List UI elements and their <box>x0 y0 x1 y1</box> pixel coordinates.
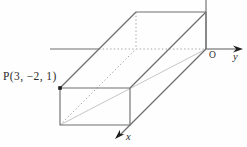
box-3d-figure: P(3, −2, 1) O y x <box>0 0 247 147</box>
x-axis-line <box>119 49 206 136</box>
origin-label: O <box>209 50 216 60</box>
bottom-face-diagonal <box>60 49 206 125</box>
x-axis-label: x <box>125 131 131 142</box>
box-edge-top-right <box>130 12 206 88</box>
hidden-edges-group <box>60 12 206 125</box>
x-axis-arrowhead <box>115 130 124 139</box>
point-p-label: P(3, −2, 1) <box>3 70 57 83</box>
diagram-page: P(3, −2, 1) O y x <box>0 0 247 147</box>
y-axis-label: y <box>232 51 238 62</box>
box-edge-bottom-left-hidden <box>60 49 136 125</box>
box-edge-top-left <box>60 12 136 88</box>
point-p-marker <box>58 86 62 90</box>
